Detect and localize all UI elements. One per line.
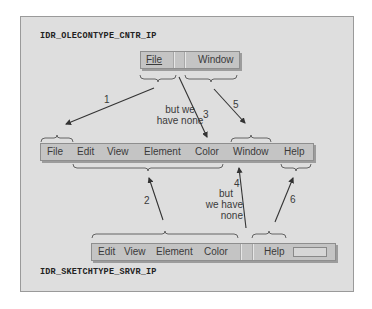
separator (253, 244, 254, 260)
container-resource-id: IDR_OLECONTYPE_CNTR_IP (40, 31, 157, 41)
merged-menu-window: Window (233, 146, 269, 157)
arrow-1-label: 1 (104, 94, 110, 105)
container-menubar: File Window (140, 51, 240, 69)
server-resource-id: IDR_SKETCHTYPE_SRVR_IP (40, 267, 157, 277)
container-menu-window: Window (198, 54, 234, 65)
arrow-3-note: but we have none (156, 104, 204, 126)
merged-menu-color: Color (195, 146, 219, 157)
merged-menu-edit: Edit (77, 146, 94, 157)
server-menu-color: Color (204, 246, 228, 257)
server-menubar: Edit View Element Color Help (91, 243, 336, 261)
arrow-5-label: 5 (233, 99, 239, 110)
container-menu-file: File (146, 54, 162, 65)
merged-menu-element: Element (144, 146, 181, 157)
arrow-2-label: 2 (144, 195, 150, 206)
separator (174, 52, 175, 68)
server-menu-edit: Edit (98, 246, 115, 257)
separator (241, 244, 242, 260)
merged-menu-file: File (47, 146, 63, 157)
merged-menu-view: View (107, 146, 129, 157)
server-menu-element: Element (156, 246, 193, 257)
merged-menu-help: Help (284, 146, 305, 157)
server-menu-help: Help (264, 246, 285, 257)
arrow-4-note: but we have none (197, 188, 243, 221)
server-menu-empty-box (293, 247, 327, 257)
merged-menubar: File Edit View Element Color Window Help (40, 143, 314, 161)
arrow-6-label: 6 (290, 194, 296, 205)
separator (185, 52, 186, 68)
server-menu-view: View (124, 246, 146, 257)
